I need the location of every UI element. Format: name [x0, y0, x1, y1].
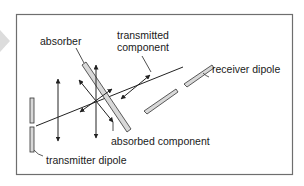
absorbed-component-label: absorbed component	[111, 135, 210, 147]
receiver-dipole-label: receiver dipole	[212, 63, 280, 75]
transmitter-dipole-label: transmitter dipole	[46, 154, 127, 166]
polarization-diagram: absorber transmitted component receiver …	[0, 0, 304, 186]
side-marker-icon	[0, 30, 10, 52]
absorber-label: absorber	[40, 35, 82, 47]
transmitted-label-line1: transmitted	[117, 29, 169, 41]
transmitted-label-line2: component	[117, 41, 169, 53]
